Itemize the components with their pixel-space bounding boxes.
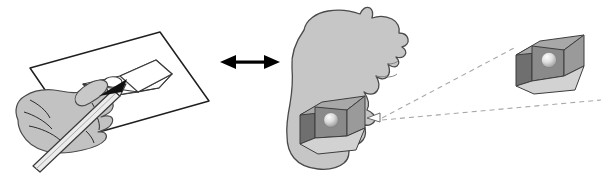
sphere: [541, 52, 556, 67]
hand-drawing-panel: [16, 32, 209, 172]
double-headed-arrow: [220, 55, 280, 69]
head-profile-panel: [287, 7, 408, 169]
illustration-root: Drawing, mental image and perception of …: [0, 0, 615, 177]
sphere: [324, 113, 339, 128]
bidirectional-arrow-panel: [220, 55, 280, 69]
real-box: [516, 35, 584, 94]
sight-line-lower: [382, 100, 601, 120]
real-object-panel: [382, 35, 601, 120]
illustration-canvas: [0, 0, 615, 177]
